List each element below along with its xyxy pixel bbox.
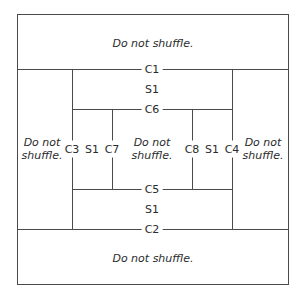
shuffle-label-bottom: S1 xyxy=(145,203,159,216)
cut-label-c2: C2 xyxy=(142,223,163,236)
cut-label-c5: C5 xyxy=(142,183,163,196)
region-middle-line-2: shuffle. xyxy=(132,149,173,162)
region-left-line-1: Do not xyxy=(22,136,63,149)
region-middle-line-1: Do not xyxy=(132,136,173,149)
shuffle-label-left: S1 xyxy=(85,143,99,156)
cut-label-c7: C7 xyxy=(104,141,121,158)
region-middle-label: Do not shuffle. xyxy=(132,136,173,162)
cut-label-c8: C8 xyxy=(184,141,201,158)
region-top-label: Do not shuffle. xyxy=(112,37,193,50)
cut-label-c3: C3 xyxy=(64,141,81,158)
cut-label-c6: C6 xyxy=(142,103,163,116)
region-left-label: Do not shuffle. xyxy=(22,136,63,162)
cut-label-c1: C1 xyxy=(142,63,163,76)
region-left-line-2: shuffle. xyxy=(22,149,63,162)
shuffle-label-right: S1 xyxy=(205,143,219,156)
region-right-line-2: shuffle. xyxy=(243,149,284,162)
region-right-label: Do not shuffle. xyxy=(243,136,284,162)
cut-label-c4: C4 xyxy=(224,141,241,158)
region-bottom-label: Do not shuffle. xyxy=(112,252,193,265)
shuffle-label-top: S1 xyxy=(145,83,159,96)
shuffle-cut-diagram: Do not shuffle. Do not shuffle. Do not s… xyxy=(0,0,304,297)
region-right-line-1: Do not xyxy=(243,136,284,149)
